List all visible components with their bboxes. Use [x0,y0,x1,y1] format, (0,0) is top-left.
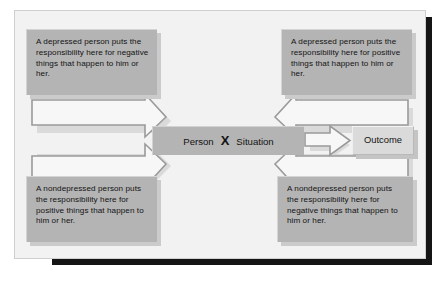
outcome-node: Outcome [352,126,414,155]
diagram-canvas: .ar { fill: #f7f7f7; stroke: #9a9a9a; st… [0,0,445,283]
note-bottom-left-text: A nondepressed person puts the responsib… [26,176,157,242]
note-top-left: A depressed person puts the responsibili… [26,29,157,95]
center-node-person-situation: Person X Situation [152,126,304,155]
center-label-person: Person [183,136,213,147]
note-top-right-text: A depressed person puts the responsibili… [281,29,412,95]
outcome-label: Outcome [352,126,414,155]
note-bottom-right-text: A nondepressed person puts the responsib… [277,176,413,242]
note-top-left-text: A depressed person puts the responsibili… [26,29,157,95]
note-top-right: A depressed person puts the responsibili… [281,29,412,95]
note-bottom-right: A nondepressed person puts the responsib… [277,176,413,242]
note-bottom-left: A nondepressed person puts the responsib… [26,176,157,242]
center-label-situation: Situation [236,136,273,147]
center-operator-x: X [221,133,230,148]
